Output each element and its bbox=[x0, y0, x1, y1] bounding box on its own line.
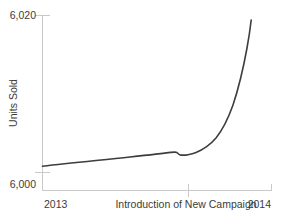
y-axis-label-top: 6,020 bbox=[10, 9, 36, 21]
x-axis-label-left: 2013 bbox=[44, 198, 68, 210]
chart-container: 6,020 6,000 Units Sold 2013 2014 Introdu… bbox=[0, 0, 289, 216]
x-axis-annotation-campaign: Introduction of New Campaign bbox=[115, 198, 256, 210]
chart-background bbox=[0, 0, 289, 216]
line-chart: 6,020 6,000 Units Sold 2013 2014 Introdu… bbox=[0, 0, 289, 216]
y-axis-title: Units Sold bbox=[7, 79, 19, 127]
y-axis-label-bottom: 6,000 bbox=[10, 178, 36, 190]
